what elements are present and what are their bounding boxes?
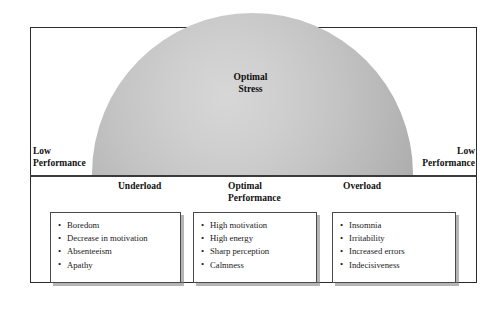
list-item-label: High motivation (210, 220, 267, 230)
bullet-icon: • (58, 232, 61, 245)
list-item: •Irritability (340, 232, 450, 245)
stress-performance-diagram: Optimal Stress Low Performance Low Perfo… (0, 0, 501, 311)
bullet-icon: • (340, 232, 343, 245)
performance-axis-line (30, 175, 477, 177)
overload-symptoms-list: •Insomnia •Irritability •Increased error… (340, 219, 450, 272)
list-item-label: Indecisiveness (349, 260, 400, 270)
overload-symptoms-box: •Insomnia •Irritability •Increased error… (332, 212, 456, 283)
list-item-label: Calmness (210, 260, 244, 270)
stress-curve-dome (92, 13, 413, 176)
bullet-icon: • (340, 258, 343, 271)
zone-label-underload-line1: Underload (118, 181, 161, 193)
list-item-label: Sharp perception (210, 246, 269, 256)
right-low-performance-label: Low Performance (421, 146, 476, 169)
right-low-performance-line1: Low (422, 146, 475, 158)
left-low-performance-line1: Low (33, 146, 86, 158)
list-item-label: Irritability (349, 233, 385, 243)
bullet-icon: • (340, 245, 343, 258)
list-item-label: Apathy (67, 260, 93, 270)
bullet-icon: • (340, 219, 343, 232)
list-item: •Decrease in motivation (58, 232, 175, 245)
list-item-label: Decrease in motivation (67, 233, 148, 243)
right-low-performance-line2: Performance (422, 158, 475, 170)
list-item: •Increased errors (340, 245, 450, 258)
bullet-icon: • (201, 258, 204, 271)
optimal-performance-traits-box: •High motivation •High energy •Sharp per… (193, 212, 317, 283)
zone-label-optimal-performance: Optimal Performance (228, 181, 281, 204)
bullet-icon: • (201, 219, 204, 232)
zone-label-optimal-line1: Optimal (228, 181, 281, 193)
optimal-performance-traits-list: •High motivation •High energy •Sharp per… (201, 219, 311, 272)
zone-label-overload: Overload (343, 181, 381, 193)
list-item: •High energy (201, 232, 311, 245)
bullet-icon: • (58, 258, 61, 271)
list-item: •Indecisiveness (340, 259, 450, 272)
left-low-performance-line2: Performance (33, 158, 86, 170)
underload-symptoms-list: •Boredom •Decrease in motivation •Absent… (58, 219, 175, 272)
list-item: •Absenteeism (58, 245, 175, 258)
zone-label-optimal-line2: Performance (228, 193, 281, 205)
zone-label-overload-line1: Overload (343, 181, 381, 193)
bullet-icon: • (201, 232, 204, 245)
list-item-label: Increased errors (349, 246, 405, 256)
list-item: •Boredom (58, 219, 175, 232)
bullet-icon: • (58, 245, 61, 258)
list-item: •Apathy (58, 259, 175, 272)
list-item: •High motivation (201, 219, 311, 232)
bullet-icon: • (201, 245, 204, 258)
bullet-icon: • (58, 219, 61, 232)
list-item-label: Insomnia (349, 220, 381, 230)
underload-symptoms-box: •Boredom •Decrease in motivation •Absent… (50, 212, 181, 283)
list-item-label: Boredom (67, 220, 99, 230)
list-item: •Sharp perception (201, 245, 311, 258)
list-item: •Calmness (201, 259, 311, 272)
list-item-label: High energy (210, 233, 253, 243)
list-item: •Insomnia (340, 219, 450, 232)
zone-label-underload: Underload (118, 181, 161, 193)
left-low-performance-label: Low Performance (32, 146, 87, 169)
list-item-label: Absenteeism (67, 246, 112, 256)
